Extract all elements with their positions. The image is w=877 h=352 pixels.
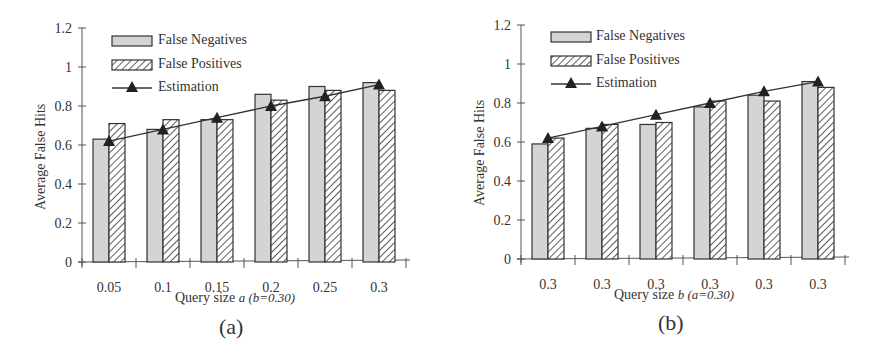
svg-text:0.4: 0.4 <box>494 174 512 189</box>
svg-text:0.6: 0.6 <box>55 138 73 153</box>
svg-text:0: 0 <box>504 252 511 267</box>
svg-text:1: 1 <box>504 57 511 72</box>
svg-text:1: 1 <box>65 60 72 75</box>
y-axis-label: Average False Hits <box>472 100 488 206</box>
svg-text:0.3: 0.3 <box>593 277 611 292</box>
legend-false-positives: False Positives <box>596 52 680 68</box>
svg-text:0.3: 0.3 <box>809 277 827 292</box>
x-axis-label-main: Query size <box>614 287 674 302</box>
svg-text:0.3: 0.3 <box>370 280 388 295</box>
x-axis-label-main: Query size <box>175 290 235 305</box>
x-axis-label-var: a (b=0.30) <box>239 290 295 305</box>
svg-text:0.3: 0.3 <box>755 277 773 292</box>
legend-false-negatives: False Negatives <box>158 32 247 48</box>
svg-text:0.25: 0.25 <box>313 280 338 295</box>
x-axis-label: Query size a (b=0.30) <box>175 290 295 306</box>
svg-text:0.2: 0.2 <box>494 213 512 228</box>
svg-text:0.6: 0.6 <box>494 135 512 150</box>
legend-estimation: Estimation <box>596 75 657 91</box>
svg-text:0.8: 0.8 <box>494 96 512 111</box>
svg-text:0.05: 0.05 <box>97 280 122 295</box>
svg-text:0.8: 0.8 <box>55 99 73 114</box>
svg-text:0: 0 <box>65 255 72 270</box>
svg-text:0.1: 0.1 <box>154 280 172 295</box>
legend-false-positives: False Positives <box>158 56 242 72</box>
chart-b: 00.20.40.60.811.20.30.30.30.30.30.3 Fals… <box>439 0 877 352</box>
legend-false-negatives: False Negatives <box>596 28 685 44</box>
legend-estimation: Estimation <box>158 79 219 95</box>
x-axis-label-var: b (a=0.30) <box>678 287 734 302</box>
svg-text:0.3: 0.3 <box>539 277 557 292</box>
svg-text:0.2: 0.2 <box>55 216 73 231</box>
chart-a: 00.20.40.60.811.20.050.10.150.20.250.3 F… <box>0 0 438 352</box>
panel-caption: (b) <box>658 310 684 336</box>
x-axis-label: Query size b (a=0.30) <box>614 287 734 303</box>
svg-text:0.4: 0.4 <box>55 177 73 192</box>
panel-caption: (a) <box>219 314 243 340</box>
y-axis-label: Average False Hits <box>33 104 49 210</box>
svg-text:1.2: 1.2 <box>55 21 73 36</box>
svg-text:1.2: 1.2 <box>494 18 512 33</box>
